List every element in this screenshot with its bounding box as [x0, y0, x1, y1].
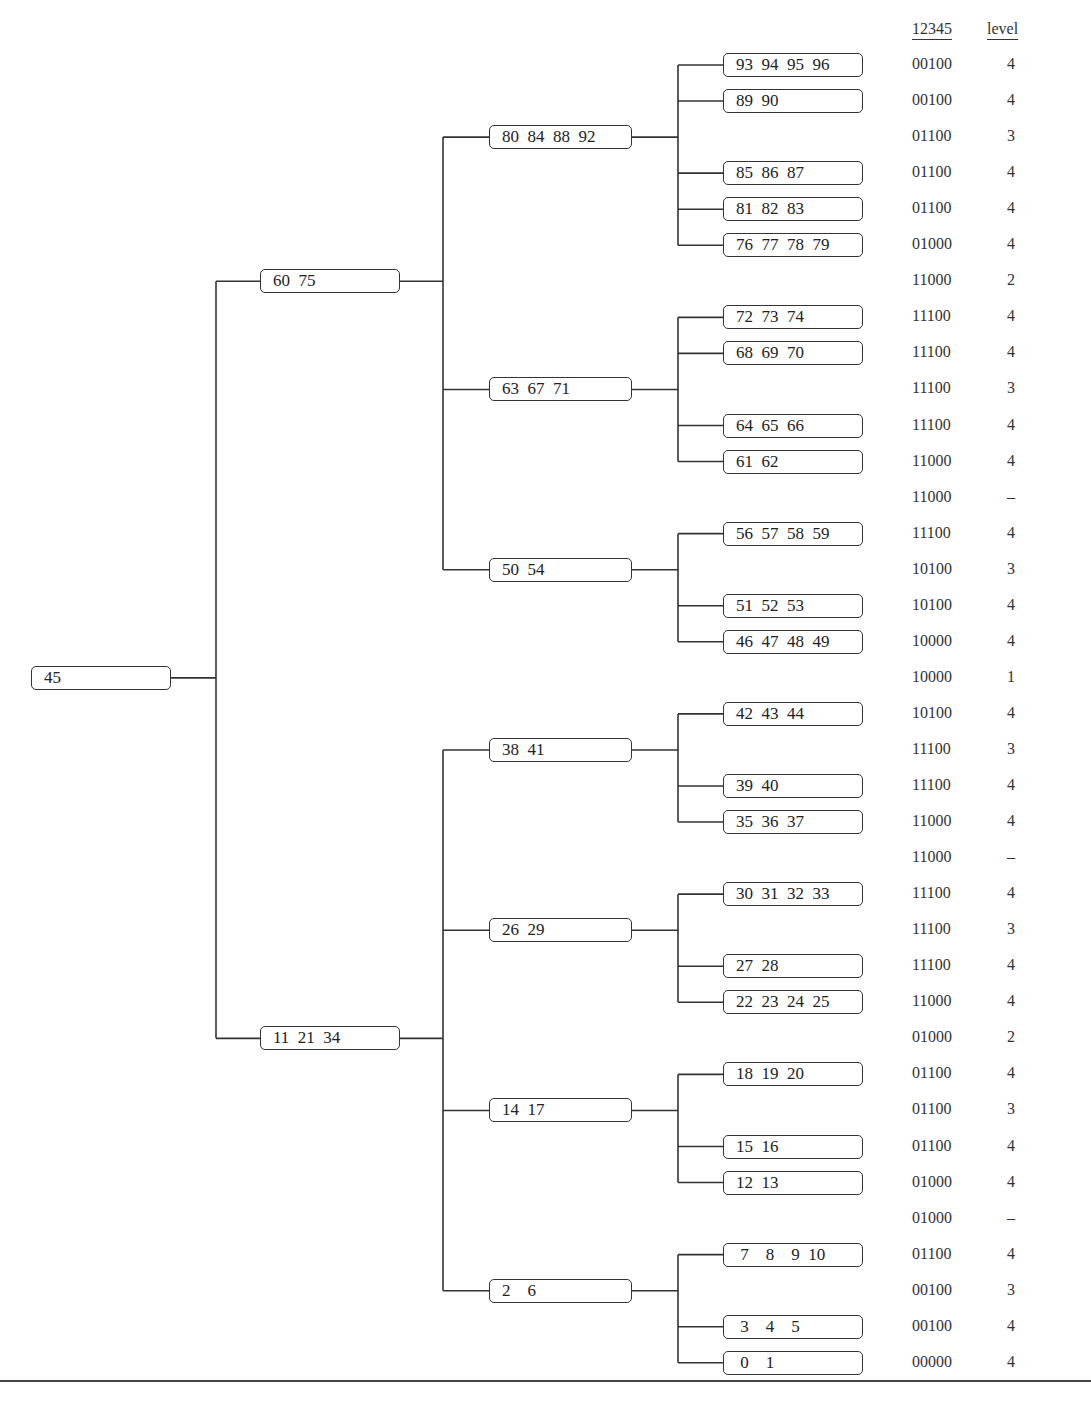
- tree-leaf-node: 56 57 58 59: [723, 522, 863, 546]
- bottom-rule: [0, 1380, 1091, 1382]
- tree-internal-node: 26 29: [489, 918, 632, 942]
- table-cell-level: 4: [1007, 307, 1015, 325]
- table-cell-bits: 01100: [912, 127, 951, 145]
- table-cell-bits: 01100: [912, 163, 951, 181]
- table-cell-level: 3: [1007, 740, 1015, 758]
- table-cell-level: 4: [1007, 235, 1015, 253]
- table-cell-bits: 11100: [912, 343, 951, 361]
- tree-leaf-node: 64 65 66: [723, 414, 863, 438]
- table-cell-level: 4: [1007, 884, 1015, 902]
- tree-internal-node: 14 17: [489, 1098, 632, 1122]
- table-cell-bits: 10000: [912, 632, 952, 650]
- table-cell-level: 4: [1007, 91, 1015, 109]
- table-cell-level: 4: [1007, 163, 1015, 181]
- tree-leaf-node: 46 47 48 49: [723, 630, 863, 654]
- table-cell-level: –: [1007, 488, 1015, 506]
- tree-leaf-node: 27 28: [723, 954, 863, 978]
- tree-internal-node: 11 21 34: [260, 1026, 400, 1050]
- table-cell-bits: 11000: [912, 812, 951, 830]
- table-cell-bits: 10100: [912, 704, 952, 722]
- table-cell-level: 4: [1007, 55, 1015, 73]
- table-cell-bits: 11100: [912, 307, 951, 325]
- table-cell-level: 4: [1007, 343, 1015, 361]
- table-cell-bits: 11000: [912, 452, 951, 470]
- table-cell-bits: 00000: [912, 1353, 952, 1371]
- tree-leaf-node: 18 19 20: [723, 1062, 863, 1086]
- tree-internal-node: 63 67 71: [489, 377, 632, 401]
- tree-internal-node: 50 54: [489, 558, 632, 582]
- tree-leaf-node: 15 16: [723, 1135, 863, 1159]
- tree-internal-node: 80 84 88 92: [489, 125, 632, 149]
- table-cell-bits: 01000: [912, 1209, 952, 1227]
- table-cell-level: 2: [1007, 1028, 1015, 1046]
- table-cell-level: –: [1007, 848, 1015, 866]
- table-cell-bits: 11000: [912, 848, 951, 866]
- tree-root-node: 45: [31, 666, 171, 690]
- table-header-level: level: [987, 20, 1018, 38]
- tree-leaf-node: 51 52 53: [723, 594, 863, 618]
- tree-leaf-node: 22 23 24 25: [723, 990, 863, 1014]
- table-cell-bits: 11000: [912, 488, 951, 506]
- table-cell-level: 4: [1007, 704, 1015, 722]
- tree-internal-node: 2 6: [489, 1279, 632, 1303]
- tree-leaf-node: 85 86 87: [723, 161, 863, 185]
- tree-leaf-node: 12 13: [723, 1171, 863, 1195]
- table-cell-level: 3: [1007, 920, 1015, 938]
- table-cell-level: 4: [1007, 199, 1015, 217]
- table-cell-bits: 10000: [912, 668, 952, 686]
- table-cell-level: 3: [1007, 379, 1015, 397]
- table-cell-level: 4: [1007, 632, 1015, 650]
- table-cell-bits: 11100: [912, 524, 951, 542]
- tree-leaf-node: 72 73 74: [723, 305, 863, 329]
- tree-leaf-node: 35 36 37: [723, 810, 863, 834]
- table-cell-level: 3: [1007, 560, 1015, 578]
- table-cell-level: 4: [1007, 812, 1015, 830]
- tree-leaf-node: 30 31 32 33: [723, 882, 863, 906]
- table-cell-bits: 01100: [912, 199, 951, 217]
- table-cell-level: 3: [1007, 1100, 1015, 1118]
- table-cell-level: 4: [1007, 416, 1015, 434]
- table-cell-bits: 10100: [912, 596, 952, 614]
- table-cell-bits: 01100: [912, 1100, 951, 1118]
- tree-leaf-node: 89 90: [723, 89, 863, 113]
- tree-leaf-node: 81 82 83: [723, 197, 863, 221]
- table-cell-level: 4: [1007, 1173, 1015, 1191]
- table-cell-bits: 11100: [912, 379, 951, 397]
- table-cell-bits: 01100: [912, 1137, 951, 1155]
- tree-leaf-node: 3 4 5: [723, 1315, 863, 1339]
- table-cell-bits: 00100: [912, 55, 952, 73]
- table-cell-bits: 10100: [912, 560, 952, 578]
- table-cell-bits: 11100: [912, 920, 951, 938]
- table-cell-level: 4: [1007, 524, 1015, 542]
- table-cell-bits: 11100: [912, 416, 951, 434]
- table-cell-level: 4: [1007, 1353, 1015, 1371]
- table-cell-bits: 01000: [912, 1173, 952, 1191]
- table-cell-bits: 01100: [912, 1245, 951, 1263]
- table-cell-bits: 01000: [912, 235, 952, 253]
- table-header-bits: 12345: [912, 20, 952, 38]
- tree-leaf-node: 42 43 44: [723, 702, 863, 726]
- table-cell-bits: 00100: [912, 1281, 952, 1299]
- table-cell-bits: 11100: [912, 740, 951, 758]
- tree-leaf-node: 68 69 70: [723, 341, 863, 365]
- table-cell-bits: 11100: [912, 776, 951, 794]
- tree-leaf-node: 0 1: [723, 1351, 863, 1375]
- table-cell-bits: 11100: [912, 884, 951, 902]
- table-cell-bits: 11000: [912, 271, 951, 289]
- table-cell-level: 2: [1007, 271, 1015, 289]
- tree-internal-node: 60 75: [260, 269, 400, 293]
- table-cell-bits: 11100: [912, 956, 951, 974]
- tree-leaf-node: 93 94 95 96: [723, 53, 863, 77]
- table-cell-bits: 01100: [912, 1064, 951, 1082]
- table-cell-level: 3: [1007, 127, 1015, 145]
- table-cell-level: 4: [1007, 776, 1015, 794]
- table-cell-level: 3: [1007, 1281, 1015, 1299]
- table-cell-level: 4: [1007, 596, 1015, 614]
- tree-leaf-node: 76 77 78 79: [723, 233, 863, 257]
- table-cell-level: 4: [1007, 1137, 1015, 1155]
- table-cell-bits: 11000: [912, 992, 951, 1010]
- tree-internal-node: 38 41: [489, 738, 632, 762]
- table-cell-level: 4: [1007, 956, 1015, 974]
- tree-leaf-node: 61 62: [723, 450, 863, 474]
- table-cell-level: 4: [1007, 452, 1015, 470]
